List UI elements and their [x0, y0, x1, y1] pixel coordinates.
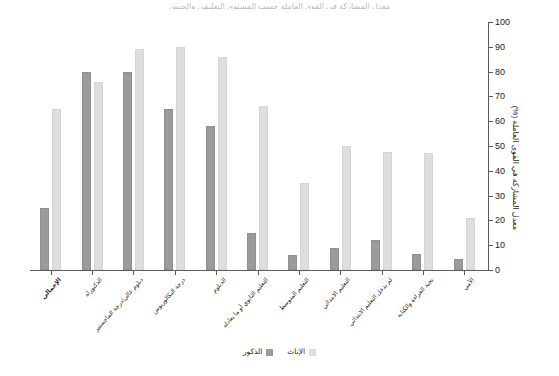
bar-female[interactable] — [424, 153, 433, 270]
y-axis-tick-label: 0 — [495, 266, 500, 275]
y-axis-tick — [489, 22, 493, 23]
x-axis-label: الأمي — [461, 276, 476, 291]
y-axis-tick-label: 100 — [495, 18, 510, 27]
bar-male[interactable] — [164, 109, 173, 270]
chart-title: معدل المشاركة في القوى العاملة حسب المست… — [169, 2, 390, 9]
bar-group — [195, 22, 236, 270]
bar-male[interactable] — [123, 72, 132, 270]
y-axis-tick-label: 30 — [495, 191, 505, 200]
x-axis-tick — [423, 270, 424, 275]
x-axis-label: درجة البكالوريوس — [150, 276, 186, 315]
bar-group — [113, 22, 154, 270]
x-axis-tick — [464, 270, 465, 275]
x-axis-label: دبلوم عالي/درجة الماجستير — [93, 276, 145, 333]
bar-group — [71, 22, 112, 270]
y-axis-title: معدل المشاركة في القوى العاملة (%) — [510, 70, 520, 230]
bar-group — [154, 22, 195, 270]
y-axis-tick-label: 50 — [495, 142, 505, 151]
bar-group — [278, 22, 319, 270]
legend-swatch-male-icon — [266, 349, 273, 356]
bar-female[interactable] — [383, 152, 392, 270]
bar-male[interactable] — [288, 255, 297, 270]
y-axis-tick — [489, 47, 493, 48]
legend-label-female: الإناث — [287, 348, 305, 356]
x-axis-tick — [92, 270, 93, 275]
x-axis-label: التعليم المتوسط — [277, 276, 310, 312]
x-axis-label: التعليم الثانوي أو ما يعادله — [220, 276, 269, 329]
bar-group — [444, 22, 485, 270]
bar-group — [30, 22, 71, 270]
legend-swatch-female-icon — [309, 349, 316, 356]
y-axis-tick-label: 90 — [495, 42, 505, 51]
bar-male[interactable] — [247, 233, 256, 270]
legend-label-male: الذكور — [243, 348, 262, 356]
x-axis-label: الدكتوراه — [83, 276, 104, 298]
y-axis-tick — [489, 220, 493, 221]
bar-male[interactable] — [330, 248, 339, 270]
y-axis-tick-label: 40 — [495, 166, 505, 175]
y-axis-tick — [489, 171, 493, 172]
bar-male[interactable] — [454, 259, 463, 270]
x-axis-label: الإجمالي — [39, 276, 62, 301]
bar-female[interactable] — [94, 82, 103, 270]
y-axis-tick — [489, 121, 493, 122]
bar-male[interactable] — [40, 208, 49, 270]
bar-female[interactable] — [52, 109, 61, 270]
x-axis-tick — [175, 270, 176, 275]
bar-male[interactable] — [412, 254, 421, 270]
y-axis-tick-label: 60 — [495, 117, 505, 126]
x-axis-label: يجيد القراءة والكتابة — [395, 276, 435, 319]
bar-male[interactable] — [82, 72, 91, 270]
bar-group — [320, 22, 361, 270]
x-axis-tick — [133, 270, 134, 275]
bar-male[interactable] — [206, 126, 215, 270]
legend-item-female[interactable]: الإناث — [287, 348, 316, 356]
bar-female[interactable] — [300, 183, 309, 270]
bar-group — [402, 22, 443, 270]
chart-legend: الذكور الإناث — [0, 348, 559, 356]
y-axis-tick-label: 80 — [495, 67, 505, 76]
bar-female[interactable] — [135, 49, 144, 270]
bar-male[interactable] — [371, 240, 380, 270]
y-axis-tick — [489, 196, 493, 197]
x-axis-tick — [51, 270, 52, 275]
plot-area — [30, 22, 485, 270]
x-axis-tick — [216, 270, 217, 275]
x-axis-tick — [382, 270, 383, 275]
chart-title-strip: معدل المشاركة في القوى العاملة حسب المست… — [0, 0, 559, 9]
bar-female[interactable] — [259, 106, 268, 270]
bar-female[interactable] — [466, 218, 475, 270]
bar-female[interactable] — [218, 57, 227, 270]
x-axis-line — [30, 270, 488, 271]
x-axis-label: لم يدخل التعليم الابتدائي — [346, 276, 393, 327]
x-axis-tick — [258, 270, 259, 275]
y-axis-tick — [489, 72, 493, 73]
y-axis-tick-label: 10 — [495, 241, 505, 250]
x-axis-label: الدبلوم — [210, 276, 227, 294]
bar-female[interactable] — [176, 47, 185, 270]
chart-figure: معدل المشاركة في القوى العاملة حسب المست… — [0, 0, 559, 376]
x-axis-tick — [299, 270, 300, 275]
x-axis-tick — [340, 270, 341, 275]
bar-female[interactable] — [342, 146, 351, 270]
y-axis-tick — [489, 96, 493, 97]
y-axis-tick — [489, 270, 493, 271]
y-axis-tick — [489, 245, 493, 246]
y-axis-tick-label: 70 — [495, 92, 505, 101]
bar-group — [237, 22, 278, 270]
y-axis-tick — [489, 146, 493, 147]
x-axis-label: التعليم الابتدائي — [320, 276, 352, 310]
legend-item-male[interactable]: الذكور — [243, 348, 273, 356]
y-axis-tick-label: 20 — [495, 216, 505, 225]
bar-group — [361, 22, 402, 270]
